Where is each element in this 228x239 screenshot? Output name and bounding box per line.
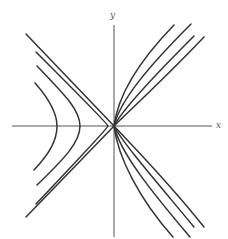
y-axis-label: y — [110, 10, 115, 20]
curve-right-5 — [114, 126, 173, 237]
curve-right-2 — [114, 24, 191, 126]
curve-right-7 — [114, 126, 194, 227]
hyperbola-family-diagram: y x — [0, 0, 228, 239]
curve-right-3 — [114, 36, 194, 126]
curve-right-4 — [114, 37, 204, 126]
x-axis-label: x — [216, 120, 221, 130]
curve-near-asymptote — [36, 52, 108, 204]
diagram-canvas — [0, 0, 228, 239]
right-curve-group — [114, 24, 204, 237]
curve-right-8 — [114, 126, 204, 227]
